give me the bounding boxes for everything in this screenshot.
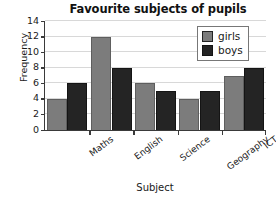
y-tick-label: 0 bbox=[33, 124, 39, 135]
legend-item-girls: girls bbox=[202, 29, 243, 43]
bar-ict-boys bbox=[244, 68, 264, 130]
y-tick-label: 14 bbox=[27, 15, 39, 26]
y-tick-mark bbox=[41, 21, 45, 23]
x-tick-mark bbox=[222, 130, 224, 135]
legend-label-boys: boys bbox=[218, 45, 243, 56]
bar-science-boys bbox=[156, 91, 176, 130]
bar-chart: Favourite subjects of pupils Frequency 0… bbox=[0, 0, 276, 207]
y-tick-mark bbox=[41, 114, 45, 116]
bar-english-boys bbox=[112, 68, 132, 130]
y-tick-label: 2 bbox=[33, 108, 39, 119]
y-tick-mark bbox=[41, 52, 45, 54]
legend-label-girls: girls bbox=[218, 31, 240, 42]
y-tick-mark bbox=[41, 83, 45, 85]
bar-geography-girls bbox=[179, 99, 199, 130]
y-tick-mark bbox=[41, 98, 45, 100]
legend-item-boys: boys bbox=[202, 43, 243, 57]
x-tick-mark bbox=[178, 130, 180, 135]
bar-geography-boys bbox=[200, 91, 220, 130]
y-tick-label: 4 bbox=[33, 92, 39, 103]
x-axis-title: Subject bbox=[44, 182, 266, 193]
bar-maths-boys bbox=[67, 83, 87, 130]
x-category-label-maths: Maths bbox=[88, 134, 116, 158]
bar-science-girls bbox=[135, 83, 155, 130]
x-tick-mark bbox=[133, 130, 135, 135]
y-tick-mark bbox=[41, 67, 45, 69]
y-tick-mark bbox=[41, 36, 45, 38]
x-category-label-english: English bbox=[133, 134, 165, 162]
x-category-label-geography: Geography bbox=[225, 134, 271, 172]
y-tick-label: 6 bbox=[33, 77, 39, 88]
bar-maths-girls bbox=[47, 99, 67, 130]
x-tick-mark bbox=[89, 130, 91, 135]
y-tick-label: 12 bbox=[27, 30, 39, 41]
bar-english-girls bbox=[91, 37, 111, 130]
y-tick-mark bbox=[41, 130, 45, 132]
gridline bbox=[45, 20, 266, 21]
y-tick-label: 10 bbox=[27, 46, 39, 57]
y-tick-label: 8 bbox=[33, 61, 39, 72]
legend-swatch-girls-icon bbox=[202, 31, 213, 42]
bar-ict-girls bbox=[224, 76, 244, 131]
legend: girls boys bbox=[197, 26, 249, 61]
gridline bbox=[45, 67, 266, 68]
x-category-label-science: Science bbox=[178, 134, 212, 163]
legend-swatch-boys-icon bbox=[202, 45, 213, 56]
chart-title: Favourite subjects of pupils bbox=[48, 2, 268, 16]
